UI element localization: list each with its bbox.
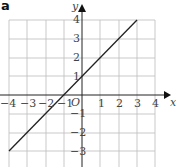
x-tick: 3: [134, 97, 141, 110]
y-tick: −2: [70, 126, 86, 139]
y-tick: 1: [73, 70, 80, 83]
y-axis-arrow-icon: [78, 4, 86, 12]
y-axis-label: y: [72, 0, 78, 13]
x-tick: 1: [98, 97, 105, 110]
y-tick: 2: [73, 51, 80, 64]
x-tick: −2: [38, 97, 54, 110]
x-tick: 2: [116, 97, 123, 110]
x-tick: −4: [0, 97, 16, 110]
y-tick: 3: [73, 32, 80, 45]
x-axis-label: x: [170, 96, 176, 109]
x-tick: −3: [20, 97, 36, 110]
chart: [0, 0, 176, 167]
y-tick: −1: [70, 107, 86, 120]
y-tick: −3: [70, 145, 86, 158]
y-tick: 4: [73, 13, 80, 26]
x-tick: 4: [152, 97, 159, 110]
